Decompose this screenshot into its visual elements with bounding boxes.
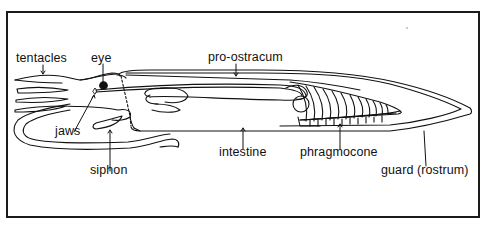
label-jaws: jaws [55,125,80,138]
label-tentacles: tentacles [16,52,67,65]
leader-guard [424,131,426,166]
leader-tentacles [41,65,45,74]
intestine-shape [96,84,307,112]
label-pro-ostracum: pro-ostracum [208,51,283,64]
label-intestine: intestine [219,146,266,159]
label-siphon: siphon [90,164,127,177]
phragmocone-shape [290,82,401,126]
label-phragmocone: phragmocone [300,146,378,159]
jaws-shape [93,88,97,94]
belemnite-drawing [0,0,482,226]
eye-icon [100,82,108,90]
label-eye: eye [91,52,111,65]
label-guard-rostrum: guard (rostrum) [381,164,469,177]
